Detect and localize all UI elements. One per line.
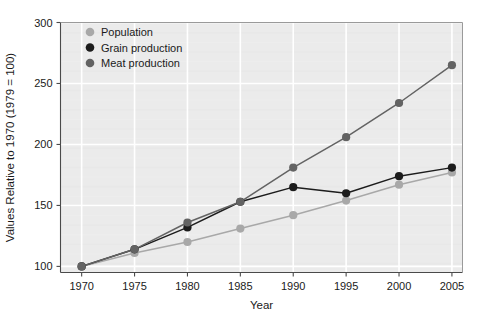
data-point[interactable] [289,183,297,191]
texture-band [61,244,463,245]
legend-label: Population [101,26,153,38]
data-point[interactable] [448,61,456,69]
data-point[interactable] [342,133,350,141]
x-tick-label: 2000 [387,280,411,292]
data-point[interactable] [342,196,350,204]
data-point[interactable] [448,164,456,172]
x-tick-label: 1995 [334,280,358,292]
data-point[interactable] [78,262,86,270]
data-point[interactable] [289,211,297,219]
texture-band [61,148,463,149]
texture-band [61,138,463,139]
data-point[interactable] [395,172,403,180]
data-point[interactable] [289,164,297,172]
x-axis-title: Year [250,299,273,311]
x-tick-label: 2005 [440,280,464,292]
y-tick-label: 150 [34,199,52,211]
y-tick-label: 250 [34,77,52,89]
texture-band [61,109,463,110]
legend-marker [86,43,95,52]
x-tick-label: 1985 [228,280,252,292]
data-point[interactable] [183,238,191,246]
data-point[interactable] [183,218,191,226]
texture-band [61,224,463,225]
texture-band [61,80,463,81]
texture-band [61,71,463,72]
x-tick-label: 1980 [175,280,199,292]
data-point[interactable] [130,245,138,253]
texture-band [61,90,463,91]
data-point[interactable] [236,224,244,232]
texture-band [61,167,463,168]
texture-band [61,215,463,216]
data-point[interactable] [395,99,403,107]
chart-container: 1001502002503001970197519801985199019952… [0,0,485,316]
texture-band [61,157,463,158]
data-point[interactable] [342,189,350,197]
y-tick-label: 300 [34,17,52,29]
texture-band [61,263,463,264]
legend-label: Grain production [101,42,182,54]
texture-band [61,119,463,120]
texture-band [61,234,463,235]
y-axis-title: Values Relative to 1970 (1979 = 100) [4,53,16,243]
legend-label: Meat production [101,57,180,69]
data-point[interactable] [236,198,244,206]
x-tick-label: 1975 [122,280,146,292]
legend-marker [86,28,95,37]
x-tick-label: 1990 [281,280,305,292]
texture-band [61,128,463,129]
data-point[interactable] [395,181,403,189]
legend-marker [86,59,95,68]
line-chart: 1001502002503001970197519801985199019952… [0,0,485,316]
y-tick-label: 100 [34,260,52,272]
x-tick-label: 1970 [69,280,93,292]
y-tick-label: 200 [34,138,52,150]
